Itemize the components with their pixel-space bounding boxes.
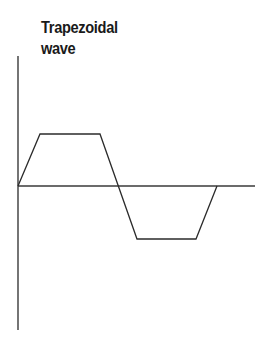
waveform-plot [0,0,273,339]
trapezoidal-wave-figure: Trapezoidal wave [0,0,273,339]
